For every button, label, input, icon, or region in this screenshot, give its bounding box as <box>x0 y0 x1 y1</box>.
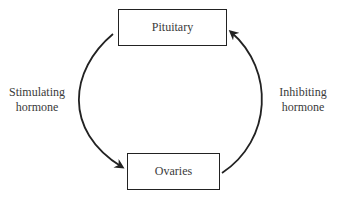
inhibiting-line2: hormone <box>272 100 334 115</box>
ovaries-label: Ovaries <box>155 164 192 179</box>
pituitary-label: Pituitary <box>152 20 193 35</box>
stimulating-arrow <box>79 34 122 167</box>
stimulating-hormone-label: Stimulating hormone <box>2 85 72 115</box>
inhibiting-arrow <box>222 32 262 173</box>
stimulating-line2: hormone <box>2 100 72 115</box>
stimulating-line1: Stimulating <box>2 85 72 100</box>
ovaries-node: Ovaries <box>127 153 220 190</box>
inhibiting-line1: Inhibiting <box>272 85 334 100</box>
inhibiting-hormone-label: Inhibiting hormone <box>272 85 334 115</box>
pituitary-node: Pituitary <box>118 9 227 46</box>
